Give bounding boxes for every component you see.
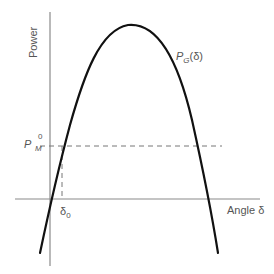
pm-label-sub: M <box>35 144 42 153</box>
curve-label: PG(δ) <box>176 50 203 65</box>
delta0-sub: 0 <box>66 211 70 220</box>
x-axis-label: Angle δ <box>227 204 264 216</box>
pm-label-sup: 0 <box>38 132 42 141</box>
delta0-label: δ0 <box>60 205 71 220</box>
power-angle-diagram: Power PG(δ) P 0 M δ0 Angle δ <box>0 0 274 274</box>
curve-label-arg: (δ) <box>190 50 203 62</box>
pm-label-main: P <box>24 138 31 150</box>
pm0-label: P 0 M <box>24 138 31 150</box>
y-axis-label: Power <box>27 27 39 58</box>
